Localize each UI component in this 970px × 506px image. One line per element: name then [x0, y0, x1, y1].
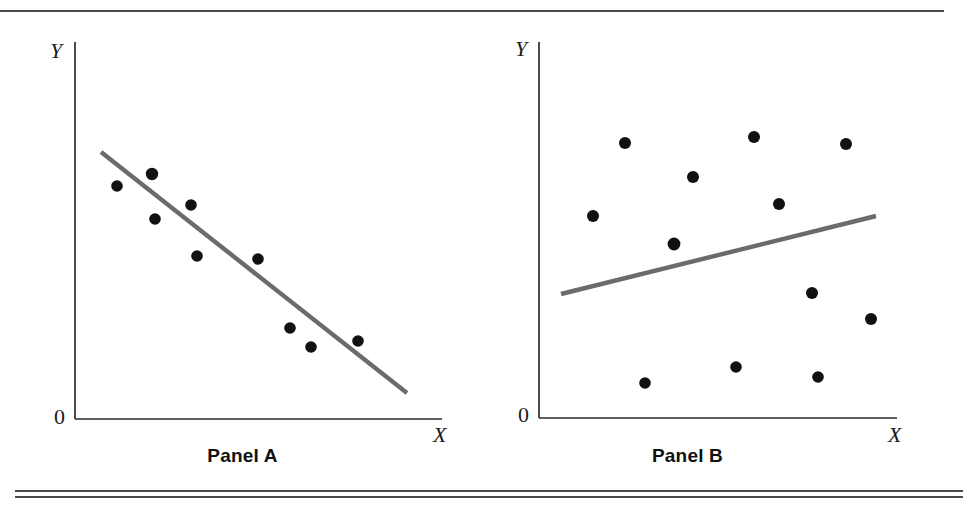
panel-b-y-axis-label: Y [515, 38, 527, 60]
panel-a-plot [0, 0, 485, 506]
panel-b-origin-label: 0 [518, 404, 529, 426]
data-point [865, 313, 877, 325]
data-point [305, 341, 317, 353]
panel-b-x-axis-label: X [888, 424, 901, 446]
data-point [146, 168, 158, 180]
data-point [185, 199, 197, 211]
panel-a-origin-label: 0 [54, 406, 65, 428]
panel-a-y-axis-label: Y [50, 40, 62, 62]
figure-container: Y X 0 Panel A [0, 0, 970, 506]
panel-a-caption: Panel A [0, 445, 485, 467]
data-point [111, 180, 123, 192]
data-point [773, 198, 785, 210]
data-point [149, 213, 161, 225]
panel-b-data-points [587, 131, 877, 389]
panel-a: Y X 0 Panel A [0, 0, 485, 506]
data-point [840, 138, 852, 150]
data-point [191, 250, 203, 262]
data-point [806, 287, 818, 299]
data-point [748, 131, 760, 143]
data-point [619, 137, 631, 149]
panel-b-caption: Panel B [445, 445, 930, 467]
bottom-rule-lower [15, 496, 963, 498]
data-point [668, 238, 681, 251]
data-point [639, 377, 651, 389]
data-point [730, 361, 742, 373]
data-point [812, 371, 824, 383]
panel-a-trend-line [101, 152, 407, 393]
data-point [352, 335, 364, 347]
data-point [284, 322, 296, 334]
data-point [252, 253, 264, 265]
panel-b: Y X 0 Panel B [485, 0, 970, 506]
data-point [587, 210, 599, 222]
panel-b-trend-line [561, 216, 876, 294]
bottom-rule-upper [15, 490, 963, 492]
data-point [687, 171, 699, 183]
panel-a-x-axis-label: X [433, 424, 446, 446]
